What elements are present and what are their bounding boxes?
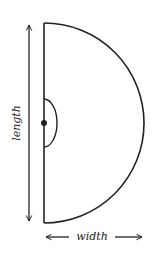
- semicircle-diagram: length width: [0, 0, 159, 254]
- width-label: width: [76, 230, 107, 243]
- center-point: [41, 120, 47, 126]
- length-label: length: [10, 105, 23, 141]
- semicircle-arc: [44, 23, 144, 223]
